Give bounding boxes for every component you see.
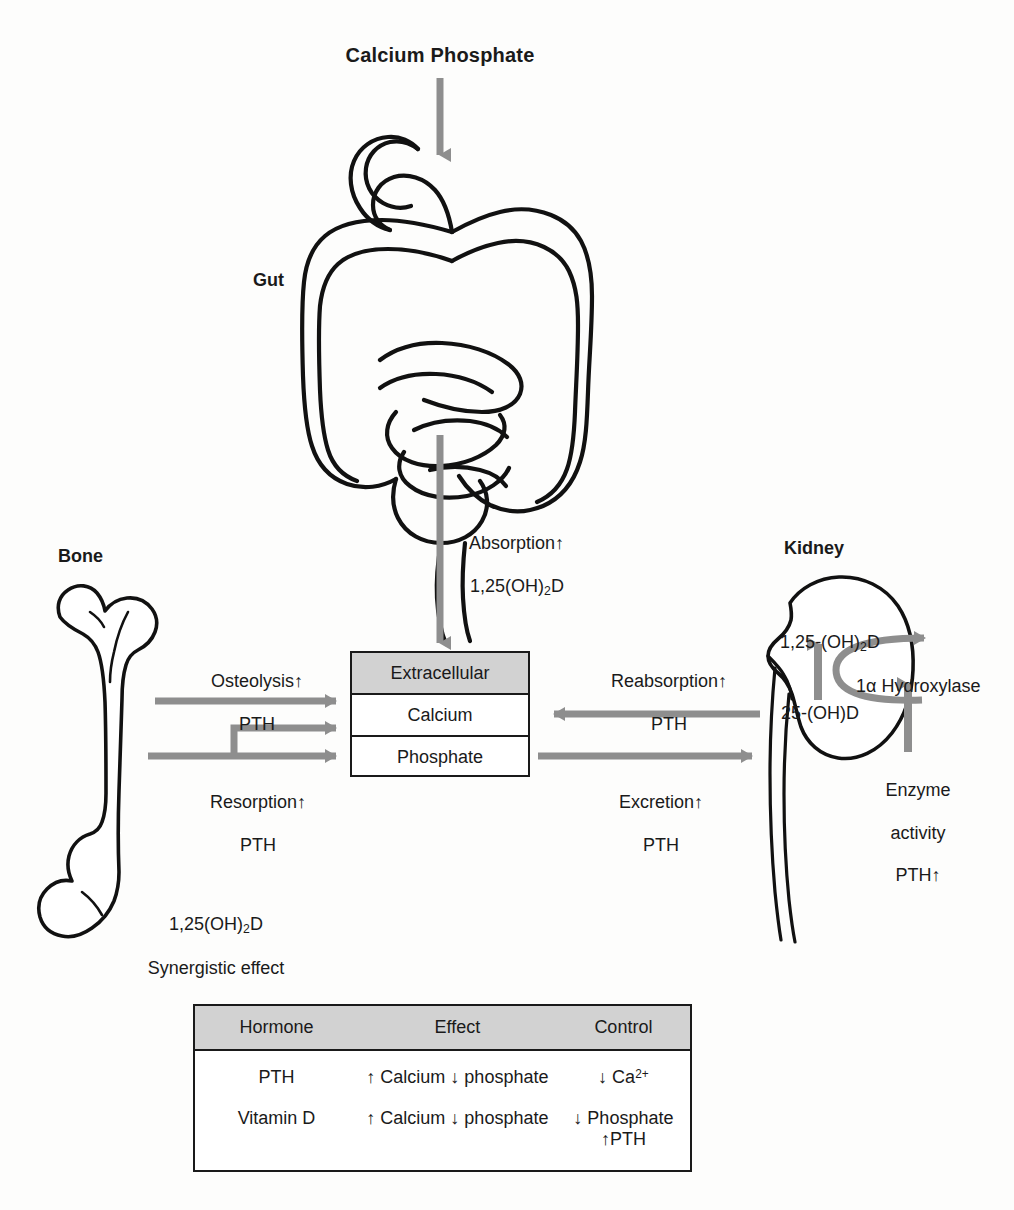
flow-label-absorption: Absorption↑ 1,25(OH)2D [450,512,564,620]
table-header-control: Control [557,1005,691,1050]
excretion-line-1: Excretion↑ [619,792,703,812]
extracellular-compartment: Extracellular Calcium Phosphate [350,651,530,777]
table-row: Vitamin D ↑ Calcium ↓ phosphate ↓ Phosph… [194,1098,691,1171]
bone-synergy-line-2: Synergistic effect [148,958,285,978]
table-header-effect: Effect [358,1005,557,1050]
summary-table: Hormone Effect Control PTH ↑ Calcium ↓ p… [193,1004,692,1172]
absorption-line-1: Absorption↑ [469,533,564,553]
kidney-label-hydroxylase: 1α Hydroxylase [836,655,980,719]
compartment-header: Extracellular [352,653,528,695]
flow-label-bone-synergy: 1,25(OH)2D Synergistic effect [128,893,285,1001]
flow-label-resorption: Resorption↑ PTH [190,771,306,877]
resorption-line-2: PTH [240,835,276,855]
diagram-canvas: Calcium Phosphate Gut Bone Kidney Absorp… [0,0,1014,1210]
osteolysis-line-1: Osteolysis↑ [211,671,303,691]
flow-label-osteolysis: Osteolysis↑ PTH [191,650,303,756]
bone-synergy-line-1: 1,25(OH)2D [169,914,263,934]
compartment-row-phosphate: Phosphate [352,737,528,779]
table-header-hormone: Hormone [194,1005,358,1050]
flow-label-reabsorption: Reabsorption↑ PTH [591,650,727,756]
enzyme-activity-line-2: activity [890,823,945,843]
enzyme-activity-line-3: PTH↑ [896,865,941,885]
kidney-label-enzyme-activity: Enzyme activity PTH↑ [865,759,950,908]
table-cell-effect: ↑ Calcium ↓ phosphate [358,1050,557,1098]
table-header-row: Hormone Effect Control [194,1005,691,1050]
reabsorption-line-1: Reabsorption↑ [611,671,727,691]
reabsorption-line-2: PTH [651,714,687,734]
organ-label-kidney: Kidney [784,538,844,559]
organ-label-gut: Gut [253,270,284,291]
enzyme-activity-line-1: Enzyme [885,780,950,800]
table-cell-hormone: Vitamin D [194,1098,358,1171]
table-cell-control: ↓ Phosphate ↑PTH [557,1098,691,1171]
absorption-line-2: 1,25(OH)2D [470,576,564,596]
osteolysis-line-2: PTH [239,714,275,734]
table-cell-hormone: PTH [194,1050,358,1098]
resorption-line-1: Resorption↑ [210,792,306,812]
compartment-row-calcium: Calcium [352,695,528,737]
table-cell-control: ↓ Ca2+ [557,1050,691,1098]
table-row: PTH ↑ Calcium ↓ phosphate ↓ Ca2+ [194,1050,691,1098]
organ-label-bone: Bone [58,546,103,567]
bone-illustration [39,586,157,937]
excretion-line-2: PTH [643,835,679,855]
flow-label-excretion: Excretion↑ PTH [599,771,703,877]
table-cell-effect: ↑ Calcium ↓ phosphate [358,1098,557,1171]
page-title: Calcium Phosphate [346,44,535,68]
